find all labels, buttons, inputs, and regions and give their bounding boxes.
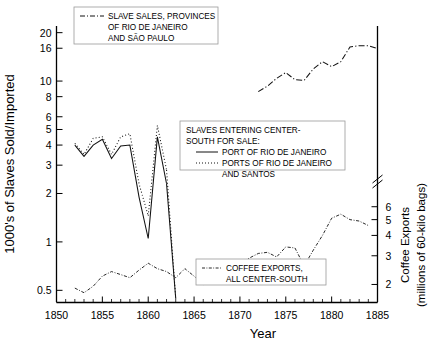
legend-slaves-entering[interactable]: SLAVES ENTERING CENTER- SOUTH FOR SALE: … [180, 121, 345, 170]
series-line-1 [75, 137, 167, 239]
legend-slave-sales-line1: SLAVE SALES, PROVINCES [108, 12, 216, 21]
x-tick-label: 1850 [45, 309, 69, 321]
x-tick-label: 1885 [366, 309, 390, 321]
y-tick-label: 3 [46, 159, 52, 171]
legend-entry-and-santos: AND SANTOS [222, 170, 276, 179]
y-axis-title: 1000's of Slaves Sold/Imported [2, 74, 17, 254]
x-tick-label: 1865 [182, 309, 206, 321]
y-tick-label: 5 [46, 123, 52, 135]
y-tick-label: 10 [40, 75, 52, 87]
legend-slaves-entering-title-line1: SLAVES ENTERING CENTER- [186, 126, 301, 135]
y2-tick-label: 3 [386, 250, 392, 262]
chart-figure: 185018551860186518701875188018850.512345… [0, 0, 437, 356]
x-tick-label: 1880 [320, 309, 344, 321]
chart-canvas: 185018551860186518701875188018850.512345… [0, 0, 437, 356]
series-line-0 [258, 46, 377, 92]
x-tick-label: 1870 [228, 309, 252, 321]
y-tick-label: 1 [46, 236, 52, 248]
y-tick-label: 0.5 [37, 284, 52, 296]
legend-entry-port-of-rio-de-janeiro: PORT OF RIO DE JANEIRO [222, 148, 326, 157]
series-line-2 [75, 125, 167, 216]
x-tick-label: 1875 [274, 309, 298, 321]
legend-slave-sales-line3: AND SÃO PAULO [108, 33, 174, 43]
x-axis-title: Year [250, 326, 277, 341]
y2-tick-label: 4 [386, 229, 392, 241]
legend-slaves-entering-title-line2: SOUTH FOR SALE: [186, 137, 260, 146]
y-tick-label: 16 [40, 42, 52, 54]
y2-axis-title-line1: Coffee Exports [399, 207, 411, 283]
y-tick-label: 4 [46, 139, 52, 151]
x-tick-label: 1860 [137, 309, 161, 321]
legend-entry-ports-of-rio-de-janeiro: PORTS OF RIO DE JANEIRO [222, 159, 332, 168]
y2-tick-label: 2 [386, 278, 392, 290]
legend-slave-sales-line2: OF RIO DE JANEIRO [108, 23, 188, 32]
legend-coffee-exports-line2: ALL CENTER-SOUTH [226, 275, 308, 284]
y-tick-label: 6 [46, 111, 52, 123]
y-tick-label: 2 [46, 187, 52, 199]
y2-tick-label: 6 [386, 201, 392, 213]
y-tick-label: 20 [40, 27, 52, 39]
y-tick-label: 8 [46, 91, 52, 103]
y2-axis-title-line2: (millions of 60-kilo bags) [415, 183, 427, 307]
legend-slave-sales[interactable]: SLAVE SALES, PROVINCES OF RIO DE JANEIRO… [74, 7, 218, 44]
x-tick-label: 1855 [91, 309, 115, 321]
y2-tick-label: 5 [386, 214, 392, 226]
series-terminal-drop-2 [167, 170, 176, 299]
legend-coffee-exports[interactable]: COFFEE EXPORTS, ALL CENTER-SOUTH [196, 259, 326, 285]
legend-coffee-exports-line1: COFFEE EXPORTS, [226, 264, 303, 273]
